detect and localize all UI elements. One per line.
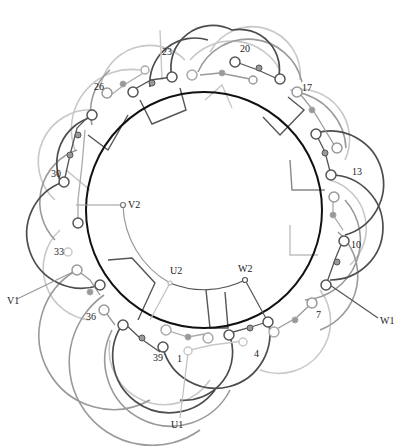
winding-diagram: 1 4 7 10 13 17 20 23 26 30 33 36 39 U1 U… <box>0 0 399 446</box>
slot-nodes <box>59 57 349 355</box>
slot-label: 13 <box>352 166 362 177</box>
terminal-nodes <box>121 203 248 286</box>
slot-label: 39 <box>153 352 163 363</box>
slot-label: 33 <box>54 246 64 257</box>
terminal-label-u1: U1 <box>171 419 183 430</box>
light-coils <box>38 27 366 405</box>
slot-label: 7 <box>316 309 321 320</box>
slot-label: 26 <box>94 81 104 92</box>
terminal-label-v1: V1 <box>7 295 19 306</box>
slot-label: 10 <box>351 239 361 250</box>
terminal-label-u2: U2 <box>170 265 182 276</box>
terminal-label-w1: W1 <box>380 315 394 326</box>
terminal-labels: U1 U2 V1 V2 W1 W2 <box>7 199 394 430</box>
u2-terminal-node <box>168 281 172 285</box>
slot-label: 36 <box>86 311 96 322</box>
terminal-label-v2: V2 <box>128 199 140 210</box>
winding-diagram-svg: 1 4 7 10 13 17 20 23 26 30 33 36 39 U1 U… <box>0 0 399 446</box>
slot-label: 1 <box>177 353 182 364</box>
slot-label: 30 <box>51 168 61 179</box>
mid-coils <box>39 39 360 445</box>
slot-label: 20 <box>240 43 250 54</box>
slot-label: 23 <box>162 46 172 57</box>
w2-terminal-node <box>243 278 248 283</box>
v2-terminal-node <box>121 203 126 208</box>
terminal-label-w2: W2 <box>238 263 252 274</box>
slot-label: 4 <box>254 348 259 359</box>
slot-label: 17 <box>302 82 312 93</box>
